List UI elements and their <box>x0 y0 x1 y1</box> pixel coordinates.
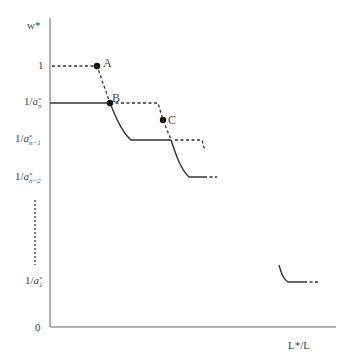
diagram-canvas <box>0 0 353 357</box>
tick-prefix: 1/ <box>24 95 33 107</box>
dashed-path <box>52 66 318 282</box>
origin-label-text: 0 <box>35 321 41 333</box>
x-axis-label: L*/L <box>288 340 310 351</box>
point-a-label-text: A <box>103 56 112 70</box>
y-tick-1: 1 <box>38 60 44 71</box>
tick-sub: 1 <box>39 283 43 289</box>
origin-label: 0 <box>35 322 41 333</box>
point-b-label-text: B <box>112 91 120 105</box>
tick-sub: n−1 <box>29 141 41 147</box>
y-axis-label: w* <box>27 20 40 31</box>
point-c-label-text: C <box>168 113 176 127</box>
tick-sub: n−2 <box>29 179 41 185</box>
y-tick-1-text: 1 <box>38 59 44 71</box>
y-axis-label-text: w* <box>27 19 40 31</box>
y-tick-an-1: 1/a*n−1 <box>15 133 41 147</box>
point-b-label: B <box>112 92 120 104</box>
y-tick-an: 1/a*n <box>24 96 42 110</box>
x-axis-label-text: L*/L <box>288 339 310 351</box>
point-c <box>160 117 166 123</box>
point-c-label: C <box>168 114 176 126</box>
point-a-label: A <box>103 57 112 69</box>
tick-prefix: 1/ <box>15 170 24 182</box>
tick-sub: n <box>38 104 42 110</box>
solid-path <box>50 103 304 282</box>
y-tick-a1: 1/a*1 <box>25 275 43 289</box>
y-tick-an-2: 1/a*n−2 <box>15 171 41 185</box>
tick-prefix: 1/ <box>15 132 24 144</box>
point-a <box>94 63 100 69</box>
tick-prefix: 1/ <box>25 274 34 286</box>
